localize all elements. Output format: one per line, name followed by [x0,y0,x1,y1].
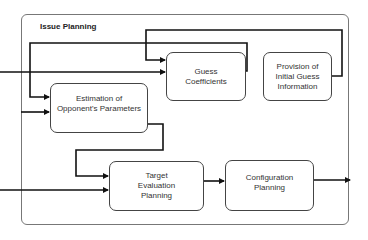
node-estimation-opponent: Estimation of Opponent's Parameters [50,83,148,133]
node-target-evaluation: Target Evaluation Planning [109,161,204,211]
node-label-line: Evaluation [138,181,175,191]
node-guess-coefficients: Guess Coefficients [166,52,246,101]
node-label-line: Provision of [277,62,319,72]
node-label-line: Estimation of [76,94,122,104]
node-label-line: Guess [194,67,217,77]
node-label-line: Opponent's Parameters [57,104,141,114]
node-label-line: Planning [254,183,285,193]
node-label-line: Initial Guess [275,72,319,82]
node-label-line: Information [277,82,317,92]
node-label-line: Planning [141,191,172,201]
node-provision-initial-guess: Provision of Initial Guess Information [263,52,332,101]
node-label-line: Target [145,171,167,181]
node-label-line: Coefficients [185,77,227,87]
node-configuration-planning: Configuration Planning [225,160,314,211]
node-label-line: Configuration [246,173,294,183]
